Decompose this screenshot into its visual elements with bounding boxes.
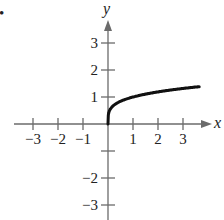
chart-canvas: • x y −3−2−1123 −3−2123 [0,0,224,220]
x-tick-label: 1 [129,131,137,147]
x-tick-label: −3 [25,131,41,147]
x-tick-label: −1 [75,131,91,147]
y-tick-label: 1 [91,89,99,105]
x-axis-arrow-icon [201,120,212,128]
x-tick-label: 3 [179,131,187,147]
x-tick-label: −2 [50,131,66,147]
y-tick-label: 2 [91,62,99,78]
y-tick-label: −3 [82,197,98,213]
item-bullet: • [0,5,4,21]
y-tick-label: 3 [91,35,99,51]
y-axis-arrow-icon [104,20,112,31]
x-axis-label: x [213,114,221,131]
y-tick-label: −2 [82,170,98,186]
y-axis-label: y [101,0,111,18]
function-curve [108,87,199,124]
x-tick-label: 2 [154,131,162,147]
x-tick-labels: −3−2−1123 [25,131,187,147]
